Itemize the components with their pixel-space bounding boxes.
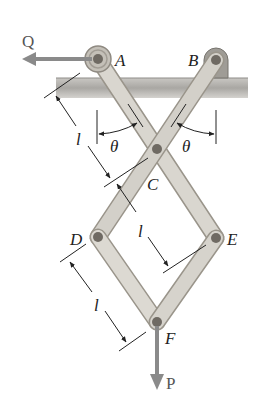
scissor-linkage-diagram: Q P A B C D E F θ θ l l l	[0, 0, 255, 403]
label-p: P	[166, 374, 175, 393]
label-f: F	[164, 329, 176, 348]
ground-support	[56, 78, 248, 98]
dim-l-ac-line-1	[56, 96, 76, 126]
label-l-ce: l	[138, 222, 143, 241]
label-theta-left: θ	[110, 137, 118, 156]
label-l-ac: l	[76, 130, 81, 149]
dim-l-ac-line-2	[88, 146, 110, 178]
label-q: Q	[22, 32, 34, 51]
dim-l-ce-line-2	[148, 237, 168, 266]
label-d: D	[69, 230, 83, 249]
label-a: A	[114, 51, 126, 70]
pin-f	[152, 317, 162, 327]
dim-l-df-ext-bottom	[119, 332, 146, 351]
label-b: B	[188, 51, 199, 70]
pin-e	[211, 233, 221, 243]
label-theta-right: θ	[182, 137, 190, 156]
force-q-arrow	[22, 52, 92, 66]
pin-c	[152, 144, 162, 154]
label-l-df: l	[94, 296, 99, 315]
dim-l-df-line-2	[105, 311, 126, 342]
label-e: E	[226, 230, 238, 249]
pin-a	[93, 54, 103, 64]
link-e-f	[157, 238, 216, 322]
label-c: C	[147, 175, 159, 194]
dim-l-df-line-1	[70, 262, 92, 292]
pin-b	[211, 55, 221, 65]
force-p-arrow	[150, 326, 164, 390]
pin-d	[93, 232, 103, 242]
link-d-f	[98, 237, 157, 322]
